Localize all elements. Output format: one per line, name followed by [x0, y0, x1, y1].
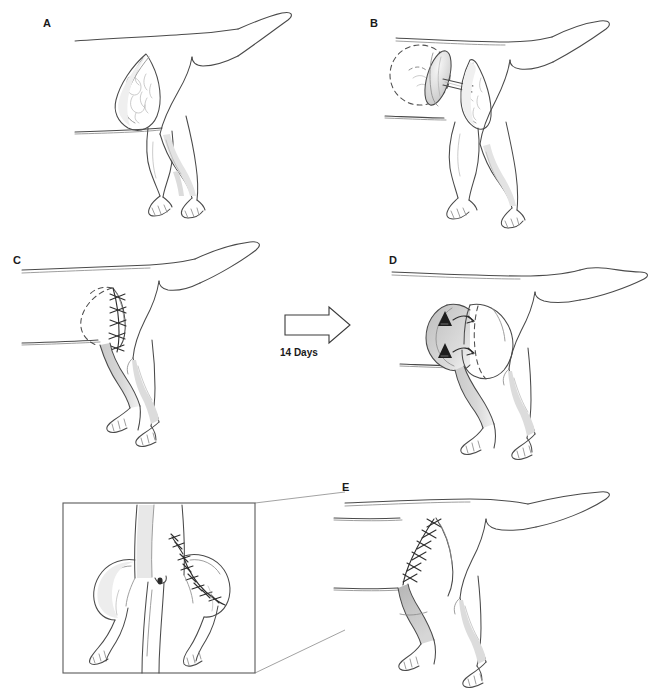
panel-d-artwork: [392, 268, 647, 460]
dashed-flap-margin: [81, 288, 112, 345]
inset-suture-line-flank: [169, 534, 184, 554]
suture-line: [108, 288, 126, 352]
panel-label-b: B: [370, 18, 378, 29]
transition-caption: 14 Days: [280, 348, 318, 358]
inset-suture-line-limb: [178, 554, 225, 605]
panel-label-c: C: [13, 255, 21, 266]
panel-b-artwork: [385, 21, 609, 228]
tail-base-marker: [157, 578, 162, 585]
figure-artwork: [0, 0, 668, 688]
surgical-figure: A B C D E 14 Days: [0, 0, 668, 688]
panel-label-a: A: [43, 18, 51, 29]
transition-arrow: [285, 307, 350, 343]
grafted-patch: [398, 584, 434, 644]
callout-line-top: [255, 492, 345, 503]
panel-label-e: E: [342, 482, 350, 493]
panel-c-artwork: [22, 242, 259, 447]
panel-e-artwork: [334, 492, 609, 688]
elevated-flap: [420, 48, 457, 108]
caudal-view-inset: [63, 492, 345, 673]
panel-a-artwork: [75, 12, 291, 218]
callout-line-bottom: [255, 630, 345, 673]
healed-suture-line: [403, 519, 441, 585]
dashed-inset-line: [474, 306, 486, 379]
inset-frame: [63, 503, 255, 673]
panel-label-d: D: [389, 255, 397, 266]
